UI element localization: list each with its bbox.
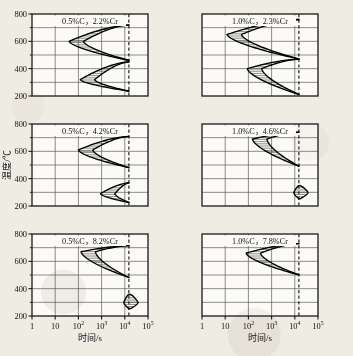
x-tick-exponent: 5 bbox=[151, 320, 154, 326]
y-tick-label: 400 bbox=[14, 175, 27, 184]
x-axis-col-0: 110102103104105时间/s bbox=[30, 316, 154, 343]
panel-p4: 1.0%C，4.6%Cr bbox=[202, 124, 318, 206]
ttt-diagram-figure: 0.5%C，2.2%Cr1.0%C，2.3%Cr0.5%C，4.2%Cr1.0%… bbox=[0, 0, 353, 356]
panel-annotation-p4: 1.0%C，4.6%Cr bbox=[232, 127, 288, 136]
x-tick-exponent: 3 bbox=[274, 320, 277, 326]
y-tick-label: 400 bbox=[14, 65, 27, 74]
panel-annotation-p2: 1.0%C，2.3%Cr bbox=[232, 17, 288, 26]
y-axis-row-2: 800600400200 bbox=[14, 230, 32, 321]
y-tick-label: 200 bbox=[14, 202, 27, 211]
y-tick-label: 600 bbox=[14, 257, 27, 266]
y-tick-label: 400 bbox=[14, 285, 27, 294]
y-tick-label: 200 bbox=[14, 312, 27, 321]
x-axis-col-1: 110102103104105时间/s bbox=[200, 316, 324, 343]
y-axis-row-0: 800600400200 bbox=[14, 10, 32, 101]
panel-p6: 1.0%C，7.8%Cr bbox=[202, 234, 318, 316]
panel-annotation-p1: 0.5%C，2.2%Cr bbox=[62, 17, 118, 26]
x-axis-label: 时间/s bbox=[78, 332, 103, 343]
ttt-diagram-svg: 0.5%C，2.2%Cr1.0%C，2.3%Cr0.5%C，4.2%Cr1.0%… bbox=[0, 0, 353, 356]
panel-annotation-p6: 1.0%C，7.8%Cr bbox=[232, 237, 288, 246]
x-tick-label: 103 bbox=[96, 320, 107, 331]
panel-p5: 0.5%C，8.2%Cr bbox=[32, 234, 148, 316]
x-tick-label: 102 bbox=[73, 320, 84, 331]
y-tick-label: 200 bbox=[14, 92, 27, 101]
panel-p3: 0.5%C，4.2%Cr bbox=[32, 124, 148, 206]
x-tick-label: 104 bbox=[119, 320, 130, 331]
y-tick-label: 600 bbox=[14, 147, 27, 156]
y-axis-label: 温度/℃ bbox=[1, 150, 12, 180]
x-tick-exponent: 4 bbox=[298, 320, 301, 326]
panel-p1: 0.5%C，2.2%Cr bbox=[32, 14, 148, 96]
x-tick-exponent: 2 bbox=[251, 320, 254, 326]
x-tick-label: 103 bbox=[266, 320, 277, 331]
y-tick-label: 600 bbox=[14, 37, 27, 46]
y-tick-label: 800 bbox=[14, 120, 27, 129]
x-tick-label: 1 bbox=[200, 322, 204, 331]
panel-annotation-p5: 0.5%C，8.2%Cr bbox=[62, 237, 118, 246]
x-axis-label: 时间/s bbox=[248, 332, 273, 343]
x-tick-label: 105 bbox=[312, 320, 323, 331]
panel-p2: 1.0%C，2.3%Cr bbox=[202, 14, 318, 96]
panel-annotation-p3: 0.5%C，4.2%Cr bbox=[62, 127, 118, 136]
x-tick-label: 104 bbox=[289, 320, 300, 331]
x-tick-exponent: 2 bbox=[81, 320, 84, 326]
y-tick-label: 800 bbox=[14, 10, 27, 19]
x-tick-exponent: 3 bbox=[104, 320, 107, 326]
y-axis-row-1: 800600400200 bbox=[14, 120, 32, 211]
x-tick-label: 10 bbox=[51, 322, 59, 331]
x-tick-exponent: 5 bbox=[321, 320, 324, 326]
y-tick-label: 800 bbox=[14, 230, 27, 239]
x-tick-label: 102 bbox=[243, 320, 254, 331]
x-tick-label: 1 bbox=[30, 322, 34, 331]
x-tick-exponent: 4 bbox=[128, 320, 131, 326]
x-tick-label: 10 bbox=[221, 322, 229, 331]
x-tick-label: 105 bbox=[142, 320, 153, 331]
